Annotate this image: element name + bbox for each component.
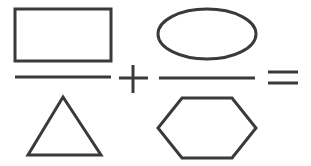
hexagon-denominator — [158, 98, 256, 158]
triangle-denominator — [28, 97, 101, 155]
shape-equation-diagram — [0, 0, 311, 166]
equals-operator — [268, 72, 298, 83]
ellipse-numerator — [158, 9, 256, 59]
plus-operator — [119, 65, 148, 93]
rectangle-numerator — [15, 9, 111, 61]
